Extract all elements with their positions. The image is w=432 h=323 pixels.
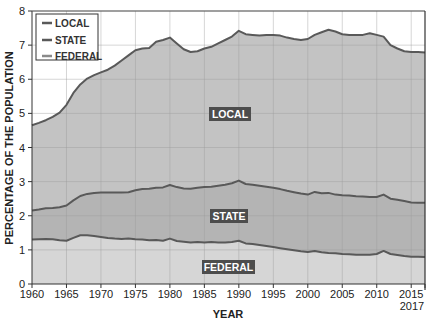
area-label-local-text: LOCAL [212,108,249,120]
y-tick-label: 3 [19,176,25,188]
x-tick-label: 1970 [89,288,113,300]
x-tick-label: 1975 [123,288,147,300]
x-tick-label: 1965 [54,288,78,300]
x-tick-label: 1980 [158,288,182,300]
legend-label-federal: FEDERAL [55,51,102,62]
area-label-state: STATE [210,209,248,223]
y-tick-label: 8 [19,5,25,17]
area-label-federal-text: FEDERAL [204,261,254,273]
x-tick-label: 2015 [399,288,423,300]
x-tick-label: 2010 [364,288,388,300]
x-tick-label: 1985 [192,288,216,300]
y-tick-label: 6 [19,73,25,85]
x-tick-label: 1995 [261,288,285,300]
y-axis-ticks: 012345678 [19,5,32,290]
legend-label-local: LOCAL [55,18,89,29]
chart: 012345678 196019651970197519801985199019… [0,0,432,323]
stacked-areas [32,30,425,284]
area-label-federal: FEDERAL [202,260,255,274]
x-tick-label: 2017 [400,300,424,312]
legend: LOCAL STATE FEDERAL [36,14,102,62]
y-tick-label: 2 [19,210,25,222]
x-tick-label: 1960 [20,288,44,300]
area-label-state-text: STATE [213,210,246,222]
area-label-local: LOCAL [209,107,251,121]
y-tick-label: 4 [19,142,25,154]
y-tick-label: 1 [19,244,25,256]
y-axis-title: PERCENTAGE OF THE POPULATION [3,51,15,244]
x-tick-label: 2000 [296,288,320,300]
legend-label-state: STATE [55,35,87,46]
x-tick-label: 1990 [227,288,251,300]
x-tick-label: 2005 [330,288,354,300]
x-axis-title: YEAR [213,308,244,320]
y-tick-label: 7 [19,39,25,51]
y-tick-label: 5 [19,107,25,119]
